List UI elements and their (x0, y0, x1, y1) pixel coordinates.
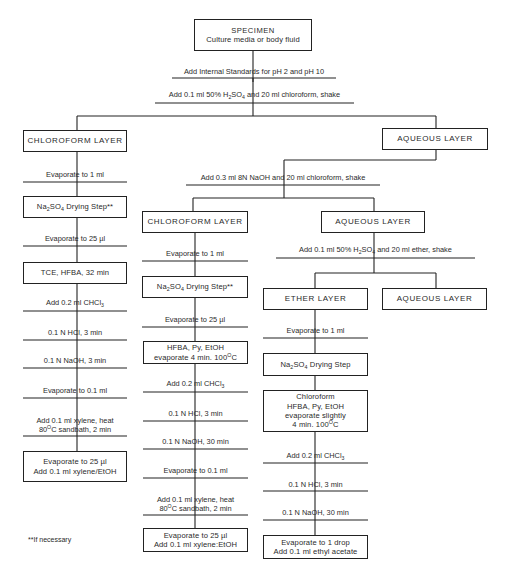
step-text: Add 0.1 ml 50% H (169, 90, 229, 99)
step-text: 0.1 N HCl, 3 min (168, 409, 222, 418)
step-internal-standards: Add Internal Standards for pH 2 and pH 1… (172, 67, 336, 76)
step-text-line2: 80OC sandbath, 2 min (23, 425, 127, 434)
left-step-evap-1ml: Evaporate to 1 ml (23, 170, 127, 179)
text: 4 min. 100 (292, 420, 328, 429)
ether-derivatize-box: Chloroform HFBA, Py, EtOH evaporate slig… (263, 390, 368, 432)
step-text: Add 0.1 ml 50% H (299, 245, 359, 254)
final-aqueous-layer-box: AQUEOUS LAYER (382, 288, 487, 310)
step-text: 0.1 N HCl, 3 min (48, 328, 102, 337)
layer-label: AQUEOUS LAYER (397, 294, 473, 303)
middle-step-evap-01ml: Evaporate to 0.1 ml (143, 466, 248, 475)
text: SO (293, 360, 304, 369)
left-step-evap-01ml: Evaporate to 0.1 ml (23, 386, 127, 395)
subscript: 3 (101, 302, 104, 308)
subscript: 3 (222, 383, 225, 389)
middle-derivatize-box: HFBA, Py, EtOH evaporate 4 min. 100OC (143, 341, 248, 364)
step-text: Add 0.1 ml xylene, heat (143, 495, 248, 504)
extraction-flowchart: SPECIMEN Culture media or body fluid Add… (0, 0, 505, 572)
text: C (333, 420, 339, 429)
text: Drying Step** (184, 282, 233, 291)
derivatize-label: TCE, HFBA, 32 min (41, 268, 109, 277)
step-text: Add 0.2 ml CHCl (46, 298, 101, 307)
text: C (231, 353, 237, 362)
text: Na (280, 360, 290, 369)
text: Na (37, 202, 47, 211)
middle-aqueous-layer-box: AQUEOUS LAYER (321, 211, 425, 233)
final-line1: Evaporate to 1 drop (281, 538, 350, 547)
step-text: 0.1 N HCl, 3 min (288, 480, 342, 489)
derivatize-line1: HFBA, Py, EtOH (167, 343, 224, 352)
middle-step-hcl: 0.1 N HCl, 3 min (143, 409, 248, 418)
step-text: Add Internal Standards for pH 2 and pH 1… (184, 67, 324, 76)
ether-step-add-chcl3: Add 0.2 ml CHCl3 (263, 451, 368, 460)
left-step-hcl: 0.1 N HCl, 3 min (23, 328, 127, 337)
connector-lines (0, 0, 505, 572)
text: 80 (159, 504, 167, 513)
drying-label: Na2SO4 Drying Step** (157, 282, 233, 291)
step-text: 0.1 N NaOH, 30 min (162, 437, 229, 446)
step-base-chloroform: Add 0.3 ml 8N NaOH and 20 ml chloroform,… (186, 173, 380, 182)
derivatize-line3: evaporate slightly (285, 411, 346, 420)
middle-step-xylene: Add 0.1 ml xylene, heat 80OC sandbath, 2… (143, 495, 248, 513)
left-step-xylene: Add 0.1 ml xylene, heat 80OC sandbath, 2… (23, 416, 127, 434)
subscript: 3 (342, 455, 345, 461)
specimen-subtitle: Culture media or body fluid (206, 35, 299, 44)
derivatize-line1: Chloroform (296, 392, 335, 401)
derivatize-line4: 4 min. 100OC (292, 420, 338, 429)
layer-label: AQUEOUS LAYER (397, 134, 473, 143)
middle-step-naoh: 0.1 N NaOH, 30 min (143, 437, 248, 446)
middle-step-evap-25ul: Evaporate to 25 µl (142, 315, 248, 324)
step-text: Evaporate to 0.1 ml (163, 466, 227, 475)
step-text: and 20 ml ether, shake (375, 245, 452, 254)
middle-drying-box: Na2SO4 Drying Step** (142, 276, 248, 298)
ether-step-naoh: 0.1 N NaOH, 30 min (263, 508, 368, 517)
left-step-add-chcl3: Add 0.2 ml CHCl3 (23, 298, 127, 307)
ether-step-hcl: 0.1 N HCl, 3 min (263, 480, 368, 489)
footnote: **If necessary (28, 536, 71, 543)
step-text: 0.1 N NaOH, 30 min (282, 508, 349, 517)
step-text: and 20 ml chloroform, shake (245, 90, 340, 99)
derivatize-line2: HFBA, Py, EtOH (287, 402, 344, 411)
specimen-title: SPECIMEN (231, 26, 275, 35)
right-aqueous-layer-box: AQUEOUS LAYER (382, 128, 488, 150)
left-derivatize-box: TCE, HFBA, 32 min (23, 262, 127, 284)
step-text: SO (362, 245, 373, 254)
text: Drying Step (308, 360, 351, 369)
step-text: Evaporate to 0.1 ml (43, 386, 107, 395)
step-text: Evaporate to 1 ml (166, 249, 224, 258)
drying-label: Na2SO4 Drying Step** (37, 202, 113, 211)
left-final-box: Evaporate to 25 µl Add 0.1 ml xylene/EtO… (23, 451, 127, 482)
left-drying-box: Na2SO4 Drying Step** (23, 196, 127, 218)
step-text: Add 0.1 ml xylene, heat (23, 416, 127, 425)
step-acid-ether: Add 0.1 ml 50% H2SO4 and 20 ml ether, sh… (276, 245, 475, 254)
text: SO (170, 282, 181, 291)
left-step-naoh: 0.1 N NaOH, 3 min (23, 356, 127, 365)
ether-step-evap-1ml: Evaporate to 1 ml (263, 326, 368, 335)
text: SO (50, 202, 61, 211)
step-text: Evaporate to 25 µl (45, 234, 105, 243)
layer-label: ETHER LAYER (285, 294, 347, 303)
final-line2: Add 0.1 ml xylene/EtOH (33, 467, 116, 476)
derivatize-line2: evaporate 4 min. 100OC (154, 353, 237, 362)
final-line2: Add 0.1 ml xylene:EtOH (154, 540, 237, 549)
ether-drying-box: Na2SO4 Drying Step (263, 353, 368, 376)
step-text: Evaporate to 25 µl (165, 315, 225, 324)
ether-final-box: Evaporate to 1 drop Add 0.1 ml ethyl ace… (263, 535, 368, 559)
text: C sandbath, 2 min (172, 504, 232, 513)
final-line1: Evaporate to 25 µl (43, 457, 107, 466)
step-text: Evaporate to 1 ml (46, 170, 104, 179)
left-chloroform-layer-box: CHLOROFORM LAYER (23, 130, 127, 152)
text: evaporate 4 min. 100 (154, 353, 227, 362)
final-line2: Add 0.1 ml ethyl acetate (274, 547, 358, 556)
step-text: Add 0.3 ml 8N NaOH and 20 ml chloroform,… (201, 173, 366, 182)
middle-final-box: Evaporate to 25 µl Add 0.1 ml xylene:EtO… (143, 528, 248, 552)
final-line1: Evaporate to 25 µl (164, 531, 228, 540)
ether-layer-box: ETHER LAYER (263, 288, 368, 310)
middle-step-evap-1ml: Evaporate to 1 ml (142, 249, 248, 258)
step-text: Add 0.2 ml CHCl (287, 451, 342, 460)
step-text: Evaporate to 1 ml (287, 326, 345, 335)
step-text-line2: 80OC sandbath, 2 min (143, 504, 248, 513)
text: 80 (39, 425, 47, 434)
layer-label: AQUEOUS LAYER (335, 217, 411, 226)
left-step-evap-25ul: Evaporate to 25 µl (23, 234, 127, 243)
